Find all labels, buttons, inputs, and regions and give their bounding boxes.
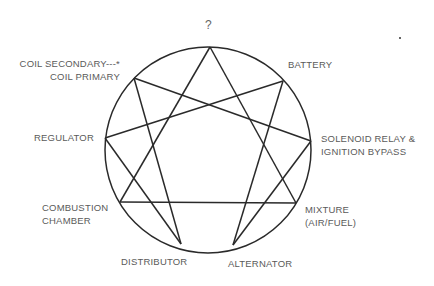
edge-mixture-combustion [120,202,296,203]
label-coil: COIL SECONDARY---* COIL PRIMARY [20,57,120,83]
label-solenoid-relay: SOLENOID RELAY & IGNITION BYPASS [321,132,415,158]
label-distributor: DISTRIBUTOR [121,255,187,268]
edge-alternator-solenoid [233,141,311,245]
label-combustion-chamber: COMBUSTION CHAMBER [42,201,108,227]
label-mixture: MIXTURE (AIR/FUEL) [305,203,356,229]
label-top-unknown: ? [205,19,212,32]
label-alternator: ALTERNATOR [228,257,292,270]
edge-distributor-regulator [105,138,181,244]
edge-coil-distributor [134,78,181,244]
stray-dot [399,37,401,39]
enneagram-diagram: ? BATTERY SOLENOID RELAY & IGNITION BYPA… [0,0,434,286]
label-battery: BATTERY [288,58,332,71]
edge-battery-alternator [233,81,283,245]
label-regulator: REGULATOR [34,131,94,144]
